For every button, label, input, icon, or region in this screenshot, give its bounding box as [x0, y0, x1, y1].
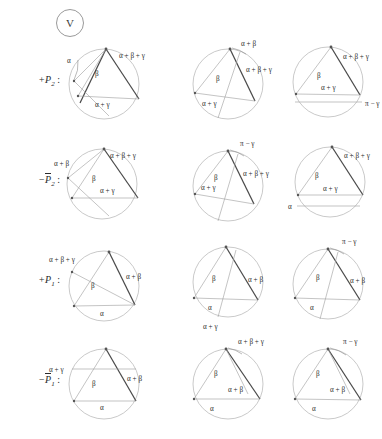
vertex-dot	[105, 48, 108, 51]
chord	[196, 49, 230, 92]
diagram-grid: +P2 : α β α + β + γ α + γ	[0, 36, 382, 439]
chord	[320, 252, 338, 319]
arc-label: α	[100, 310, 104, 318]
row-label-colon: :	[57, 274, 60, 285]
arc-label: α + γ	[49, 366, 64, 374]
vertex-dot	[108, 251, 111, 254]
circle-diagram: α β α + β + γ α + γ	[62, 36, 167, 136]
arc-label: β	[214, 370, 218, 378]
row-label-p1-minus: −P1 :	[8, 374, 60, 388]
chord	[74, 252, 109, 306]
circle-diagram: α + β + γ β α + γ π − γ	[288, 36, 382, 136]
chord	[295, 249, 328, 298]
row-label-subscript: 2	[51, 80, 55, 88]
arc-label: α + β	[127, 375, 142, 383]
diagram-row: −P1 : α + γ β α + β α	[0, 336, 382, 436]
circle-diagram: α + β β α + β + γ α + γ	[188, 36, 293, 136]
vertex-dot	[67, 177, 69, 179]
arc-label: α + β + γ	[246, 66, 273, 74]
vertex-dot	[331, 146, 334, 149]
chord	[296, 94, 360, 95]
row-label-p2-plus: +P2 :	[8, 74, 60, 88]
vertex-dot	[193, 398, 195, 400]
arc-label: β	[212, 275, 216, 283]
arc-label: α + β + γ	[343, 53, 370, 61]
arc-label: β	[315, 172, 319, 180]
row-label-subscript: 2	[51, 180, 55, 188]
vertex-dot	[294, 398, 296, 400]
arc-label: β	[214, 174, 218, 182]
arc-label: β	[92, 175, 96, 183]
chord	[295, 399, 361, 400]
circle-diagram: π − γ β α + β + γ α + γ	[188, 136, 293, 236]
vertex-dot	[194, 193, 196, 195]
arc-label: α + β	[126, 273, 141, 281]
unit-circle	[69, 251, 139, 321]
circle-diagram: β α + β α α + γ	[188, 236, 293, 336]
arc-label: α	[100, 404, 104, 412]
arc-label: α + β + γ	[110, 152, 137, 160]
arc-label: α	[210, 405, 214, 413]
chord	[74, 305, 135, 306]
chord	[68, 178, 109, 216]
arc-label: α + β	[54, 160, 69, 168]
row-label-colon: :	[57, 374, 60, 385]
row-label-subscript: 1	[51, 380, 55, 388]
vertex-dot	[194, 92, 196, 94]
arc-label: α + γ	[321, 84, 336, 92]
arc-label: α	[208, 304, 212, 312]
arc-label: β	[317, 72, 321, 80]
chord	[74, 349, 106, 401]
row-label-subscript: 1	[51, 280, 55, 288]
circle-diagram: α + β + γ β α + γ α	[288, 136, 382, 236]
arc-label: α + β	[241, 40, 256, 48]
arc-label: α + β	[350, 277, 365, 285]
chord	[218, 154, 238, 221]
row-label-p2-minus: −P2 :	[8, 174, 60, 188]
arc-label: α + β	[330, 386, 345, 394]
arc-label: α + β	[228, 386, 243, 394]
chord	[74, 81, 109, 116]
vertex-dot	[327, 248, 330, 251]
chord	[194, 349, 226, 399]
unit-circle	[293, 349, 363, 419]
arc-label: α	[288, 203, 292, 211]
triangle-edge	[230, 49, 255, 101]
vertex-dot	[327, 348, 330, 351]
arc-label: β	[92, 380, 96, 388]
figure-badge-label: V	[66, 17, 74, 29]
vertex-dot	[225, 246, 228, 249]
arc-label: β	[316, 274, 320, 282]
arc-label: β	[95, 70, 99, 78]
arc-label: α	[310, 304, 314, 312]
circle-diagram: π − γ β α + β α	[288, 236, 382, 336]
arc-label: α + β + γ	[344, 152, 371, 160]
vertex-dot	[297, 194, 299, 196]
chord	[218, 52, 240, 118]
arc-label: α + β + γ	[49, 256, 76, 264]
arc-label: β	[91, 282, 95, 290]
circle-diagram: α + γ β α + β α	[62, 336, 167, 436]
arc-label: α + γ	[95, 101, 110, 109]
arc-label: α + β + γ	[119, 52, 146, 60]
arc-label: π − γ	[365, 100, 380, 108]
arc-label: β	[316, 370, 320, 378]
chord	[78, 96, 139, 99]
arc-label: α + β	[248, 276, 263, 284]
chord	[218, 250, 236, 317]
arc-label: π − γ	[343, 338, 358, 346]
row-label-base: P	[45, 174, 51, 185]
triangle-edge	[80, 49, 106, 103]
vertex-dot	[330, 46, 333, 49]
diagram-row: +P2 : α β α + β + γ α + γ	[0, 36, 382, 136]
chord	[194, 247, 226, 298]
vertex-dot	[294, 297, 296, 299]
arc-label: π − γ	[240, 140, 255, 148]
vertex-dot	[73, 80, 75, 82]
triangle-edge	[328, 249, 360, 300]
unit-circle	[193, 49, 263, 119]
vertex-dot	[225, 348, 228, 351]
arc-label: α + β + γ	[243, 170, 270, 178]
vertex-dot	[227, 150, 230, 153]
row-label-base: P	[45, 374, 51, 385]
